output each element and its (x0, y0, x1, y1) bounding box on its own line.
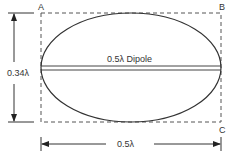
height-label: 0.34λ (7, 69, 29, 78)
corner-label-a: A (38, 3, 44, 12)
dipole-pattern-diagram (0, 0, 230, 153)
dipole-element (41, 66, 221, 70)
bounding-box (41, 13, 221, 122)
radiation-pattern-ellipse (41, 13, 221, 122)
dipole-label: 0.5λ Dipole (107, 55, 152, 64)
corner-label-b: B (219, 3, 225, 12)
width-label: 0.5λ (117, 140, 134, 149)
corner-label-c: C (219, 126, 226, 135)
